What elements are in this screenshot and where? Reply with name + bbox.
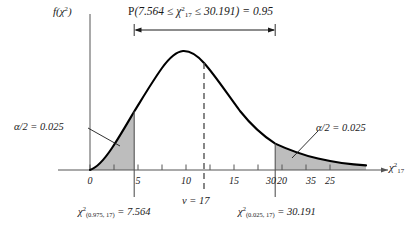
lower-critical-value-label: χ2(0.975, 17) = 7.564 bbox=[78, 207, 151, 218]
right-tail-alpha-label: α/2 = 0.025 bbox=[316, 123, 366, 134]
upper-critical-value-label: χ2(0.025, 17) = 30.191 bbox=[238, 207, 316, 218]
x-tick-label: 10 bbox=[181, 175, 191, 186]
right-tail-shaded-region bbox=[275, 144, 366, 170]
x-tick-label: 20 bbox=[277, 175, 287, 186]
left-tail-alpha-label: α/2 = 0.025 bbox=[14, 122, 64, 133]
chi-square-distribution-figure: P(7.564 ≤ χ217 ≤ 30.191) = 0.95 f(χ2) χ2… bbox=[0, 0, 416, 235]
x-tick-label-lower-crit: 30 bbox=[266, 175, 276, 186]
left-alpha-leader-line bbox=[88, 128, 120, 146]
x-tick-label: 0 bbox=[88, 175, 93, 186]
x-tick-label: 5 bbox=[136, 175, 141, 186]
x-axis-label: χ217 bbox=[389, 162, 404, 173]
right-alpha-leader-line bbox=[292, 131, 318, 158]
x-axis-arrowhead bbox=[381, 167, 388, 172]
x-tick-label: 15 bbox=[229, 175, 239, 186]
probability-span-arrow bbox=[134, 24, 275, 36]
x-tick-label: 25 bbox=[325, 175, 335, 186]
probability-statement-label: P(7.564 ≤ χ217 ≤ 30.191) = 0.95 bbox=[128, 6, 273, 18]
left-tail-shaded-region bbox=[90, 112, 134, 171]
x-tick-label-upper: 35 bbox=[306, 175, 316, 186]
y-axis-label: f(χ2) bbox=[53, 6, 72, 17]
degrees-of-freedom-label: ν = 17 bbox=[182, 196, 210, 207]
